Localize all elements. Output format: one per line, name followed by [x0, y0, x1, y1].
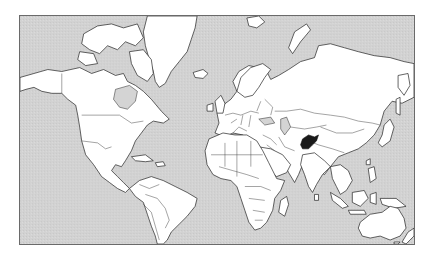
world-map	[19, 15, 415, 245]
indonesia-java	[348, 210, 366, 214]
sakhalin	[396, 97, 400, 115]
sri-lanka	[315, 194, 319, 200]
world-map-svg	[20, 16, 414, 244]
hispaniola	[155, 162, 165, 167]
sulawesi	[370, 192, 376, 204]
